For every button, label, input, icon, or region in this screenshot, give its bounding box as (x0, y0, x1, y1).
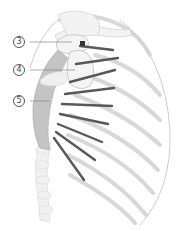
vertebral-column (35, 140, 53, 222)
highlight-point (80, 41, 85, 46)
callout-3: 3 (13, 36, 25, 48)
callout-4: 4 (13, 64, 25, 76)
serratus-anterior-band (33, 50, 68, 150)
callout-5: 5 (13, 95, 25, 107)
anatomy-figure (0, 0, 182, 231)
